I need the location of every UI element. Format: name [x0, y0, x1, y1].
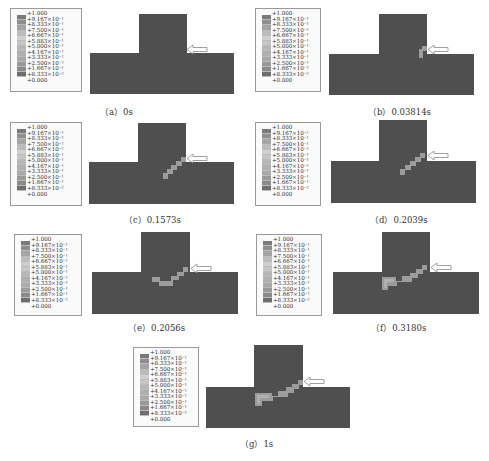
legend-labels: 1.0009.167×10⁻¹8.333×10⁻¹7.500×10⁻¹6.667…	[27, 11, 64, 83]
caption-e: （e）0.2056s	[128, 321, 185, 333]
legend-label: 0.000	[272, 78, 309, 84]
legend-band	[262, 72, 271, 77]
legend-colorbar	[262, 129, 271, 191]
legend-labels: 1.0009.167×10⁻¹8.333×10⁻¹7.500×10⁻¹6.667…	[273, 237, 310, 309]
specimen-base-block	[90, 53, 234, 94]
legend-labels: 1.0009.167×10⁻¹8.333×10⁻¹7.500×10⁻¹6.667…	[27, 125, 64, 197]
legend-labels: 1.0009.167×10⁻¹8.333×10⁻¹7.500×10⁻¹6.667…	[272, 11, 309, 83]
legend-colorbar	[262, 15, 271, 77]
caption-d: （d）0.2039s	[370, 213, 428, 225]
legend-label: 0.000	[27, 78, 64, 84]
legend-band	[140, 411, 149, 416]
legend-label: 0.000	[273, 304, 310, 310]
damage-zone	[399, 153, 426, 176]
specimen-base-block	[329, 54, 474, 95]
damage-zone	[381, 265, 428, 291]
legend-d: 1.0009.167×10⁻¹8.333×10⁻¹7.500×10⁻¹6.667…	[255, 122, 321, 206]
legend-colorbar	[21, 241, 30, 303]
legend-b: 1.0009.167×10⁻¹8.333×10⁻¹7.500×10⁻¹6.667…	[255, 8, 321, 92]
damage-zone	[162, 157, 187, 180]
legend-a: 1.0009.167×10⁻¹8.333×10⁻¹7.500×10⁻¹6.667…	[10, 8, 82, 92]
legend-band	[263, 298, 272, 303]
caption-b: （b）0.03814s	[368, 105, 431, 117]
caption-f: （f）0.3180s	[371, 321, 426, 333]
load-arrow-icon	[303, 376, 325, 387]
damage-zone	[151, 267, 189, 287]
load-arrow-icon	[427, 44, 449, 55]
legend-band	[21, 298, 30, 303]
caption-a: （a）0s	[100, 105, 133, 117]
specimen-top-block	[139, 14, 187, 54]
load-arrow-icon	[427, 150, 449, 161]
legend-colorbar	[17, 15, 26, 77]
load-arrow-icon	[186, 44, 208, 55]
legend-g: 1.0009.167×10⁻¹8.333×10⁻¹7.500×10⁻¹6.667…	[133, 347, 199, 427]
legend-labels: 1.0009.167×10⁻¹8.333×10⁻¹7.500×10⁻¹6.667…	[31, 237, 68, 309]
damage-zone	[254, 380, 304, 407]
legend-f: 1.0009.167×10⁻¹8.333×10⁻¹7.500×10⁻¹6.667…	[256, 234, 322, 316]
legend-band	[262, 186, 271, 191]
legend-colorbar	[263, 241, 272, 303]
legend-band	[17, 186, 26, 191]
legend-colorbar	[17, 129, 26, 191]
load-arrow-icon	[186, 153, 208, 164]
caption-g: （g）1s	[240, 437, 273, 449]
legend-band	[17, 72, 26, 77]
load-arrow-icon	[190, 263, 212, 274]
legend-c: 1.0009.167×10⁻¹8.333×10⁻¹7.500×10⁻¹6.667…	[10, 122, 82, 206]
legend-e: 1.0009.167×10⁻¹8.333×10⁻¹7.500×10⁻¹6.667…	[14, 234, 82, 316]
caption-c: （c）0.1573s	[124, 213, 181, 225]
legend-labels: 1.0009.167×10⁻¹8.333×10⁻¹7.500×10⁻¹6.667…	[150, 350, 187, 422]
load-arrow-icon	[430, 262, 452, 273]
legend-label: 0.000	[272, 192, 309, 198]
legend-colorbar	[140, 354, 149, 416]
legend-label: 0.000	[150, 417, 187, 423]
legend-label: 0.000	[27, 192, 64, 198]
legend-label: 0.000	[31, 304, 68, 310]
legend-labels: 1.0009.167×10⁻¹8.333×10⁻¹7.500×10⁻¹6.667…	[272, 125, 309, 197]
